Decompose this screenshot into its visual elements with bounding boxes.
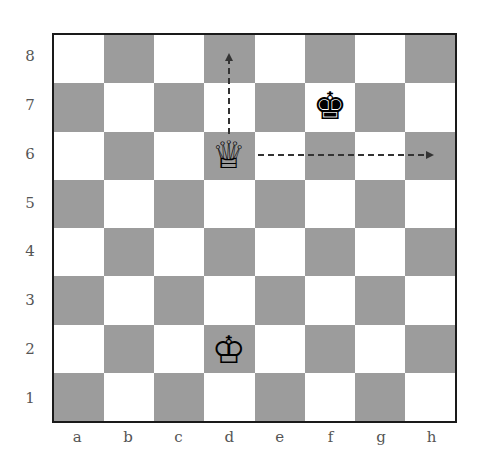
square-b4 (104, 228, 154, 276)
rank-label-6: 6 (22, 145, 38, 163)
square-a8 (54, 35, 104, 83)
square-f8 (305, 35, 355, 83)
square-b2 (104, 325, 154, 373)
square-h6 (405, 132, 455, 180)
square-b8 (104, 35, 154, 83)
square-b3 (104, 276, 154, 324)
square-g7 (355, 83, 405, 131)
white-king-icon: ♔ (204, 326, 254, 374)
square-h4 (405, 228, 455, 276)
square-f5 (305, 180, 355, 228)
square-c6 (154, 132, 204, 180)
rank-label-4: 4 (22, 242, 38, 260)
square-g8 (355, 35, 405, 83)
square-e6 (255, 132, 305, 180)
square-a6 (54, 132, 104, 180)
square-a7 (54, 83, 104, 131)
file-label-a: a (67, 428, 87, 446)
white-queen-icon: ♕ (204, 131, 254, 179)
square-c7 (154, 83, 204, 131)
square-g1 (355, 373, 405, 421)
rank-label-3: 3 (22, 291, 38, 309)
square-f2 (305, 325, 355, 373)
square-c1 (154, 373, 204, 421)
square-d5 (204, 180, 254, 228)
file-label-f: f (320, 428, 340, 446)
rank-label-1: 1 (22, 389, 38, 407)
square-h7 (405, 83, 455, 131)
file-label-b: b (118, 428, 138, 446)
black-king-icon: ♚ (305, 82, 355, 130)
square-d8 (204, 35, 254, 83)
square-c8 (154, 35, 204, 83)
square-d1 (204, 373, 254, 421)
square-g6 (355, 132, 405, 180)
rank-label-7: 7 (22, 96, 38, 114)
square-b7 (104, 83, 154, 131)
square-d7 (204, 83, 254, 131)
square-d4 (204, 228, 254, 276)
square-h8 (405, 35, 455, 83)
square-e7 (255, 83, 305, 131)
chess-board (52, 33, 457, 423)
square-f1 (305, 373, 355, 421)
file-label-e: e (270, 428, 290, 446)
square-a2 (54, 325, 104, 373)
square-e5 (255, 180, 305, 228)
square-c4 (154, 228, 204, 276)
square-c3 (154, 276, 204, 324)
file-label-d: d (219, 428, 239, 446)
square-h2 (405, 325, 455, 373)
square-e8 (255, 35, 305, 83)
square-c5 (154, 180, 204, 228)
square-e1 (255, 373, 305, 421)
square-f4 (305, 228, 355, 276)
rank-label-8: 8 (22, 47, 38, 65)
file-label-h: h (422, 428, 442, 446)
square-a1 (54, 373, 104, 421)
square-a3 (54, 276, 104, 324)
square-d3 (204, 276, 254, 324)
chess-diagram: 87654321 abcdefgh ♕♚♔ (0, 0, 481, 466)
square-a4 (54, 228, 104, 276)
rank-label-5: 5 (22, 194, 38, 212)
square-h3 (405, 276, 455, 324)
square-b6 (104, 132, 154, 180)
square-f6 (305, 132, 355, 180)
square-b1 (104, 373, 154, 421)
square-h5 (405, 180, 455, 228)
square-g5 (355, 180, 405, 228)
square-e4 (255, 228, 305, 276)
square-f3 (305, 276, 355, 324)
square-g4 (355, 228, 405, 276)
square-g2 (355, 325, 405, 373)
square-e3 (255, 276, 305, 324)
file-label-c: c (169, 428, 189, 446)
square-a5 (54, 180, 104, 228)
square-e2 (255, 325, 305, 373)
square-g3 (355, 276, 405, 324)
square-b5 (104, 180, 154, 228)
square-c2 (154, 325, 204, 373)
rank-label-2: 2 (22, 340, 38, 358)
square-h1 (405, 373, 455, 421)
file-label-g: g (371, 428, 391, 446)
